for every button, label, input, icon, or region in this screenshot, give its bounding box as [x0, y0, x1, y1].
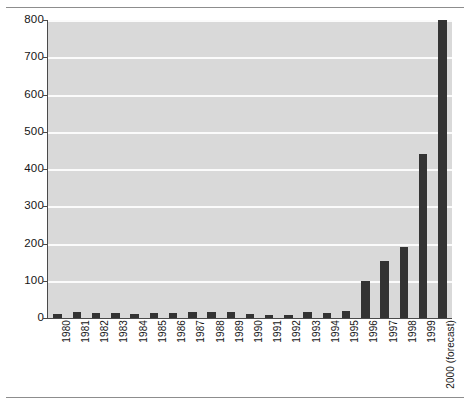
x-tick-label: 1983 — [119, 320, 129, 343]
bar — [342, 311, 350, 318]
gridline — [48, 57, 452, 59]
bar — [150, 313, 158, 318]
x-tick-label: 1995 — [350, 320, 360, 343]
x-tick-label: 1982 — [100, 320, 110, 343]
chart-figure: 0100200300400500600700800 19801981198219… — [0, 0, 472, 410]
x-tick-label: 1997 — [389, 320, 399, 343]
x-tick-label: 2000 (forecast) — [446, 320, 456, 389]
bar — [53, 314, 61, 318]
y-tick-mark — [43, 132, 47, 133]
x-tick-label: 1990 — [254, 320, 264, 343]
bar — [111, 313, 119, 318]
gridline — [48, 20, 452, 22]
bar — [130, 314, 138, 318]
y-tick-mark — [43, 169, 47, 170]
x-tick-label: 1992 — [292, 320, 302, 343]
top-divider-rule — [6, 7, 464, 8]
y-tick-mark — [43, 20, 47, 21]
bottom-divider-rule — [6, 397, 464, 398]
x-axis-labels: 1980198119821983198419851986198719881989… — [48, 320, 452, 406]
x-tick-label: 1991 — [273, 320, 283, 343]
y-tick-label: 600 — [2, 89, 44, 101]
gridline — [48, 206, 452, 208]
bar — [438, 20, 446, 318]
y-tick-mark — [43, 95, 47, 96]
y-tick-mark — [43, 57, 47, 58]
bar — [169, 313, 177, 318]
gridline — [48, 281, 452, 283]
y-tick-label: 0 — [2, 312, 44, 324]
x-tick-label: 1988 — [216, 320, 226, 343]
x-tick-label: 1984 — [139, 320, 149, 343]
x-tick-label: 1980 — [62, 320, 72, 343]
gridline — [48, 244, 452, 246]
x-tick-label: 1986 — [177, 320, 187, 343]
bar — [323, 313, 331, 318]
bar — [227, 312, 235, 318]
y-tick-label: 800 — [2, 14, 44, 26]
bar — [400, 247, 408, 318]
y-tick-mark — [43, 281, 47, 282]
x-tick-label: 1999 — [427, 320, 437, 343]
y-axis-labels: 0100200300400500600700800 — [0, 0, 44, 410]
bar — [265, 315, 273, 318]
y-tick-label: 100 — [2, 275, 44, 287]
bar — [246, 314, 254, 318]
y-tick-label: 400 — [2, 163, 44, 175]
y-tick-label: 300 — [2, 200, 44, 212]
plot-area — [48, 20, 452, 318]
bar — [303, 312, 311, 318]
bar — [284, 315, 292, 318]
bar — [207, 312, 215, 318]
x-tick-label: 1987 — [196, 320, 206, 343]
y-tick-mark — [43, 244, 47, 245]
y-tick-label: 200 — [2, 238, 44, 250]
x-tick-label: 1998 — [408, 320, 418, 343]
x-tick-label: 1989 — [235, 320, 245, 343]
x-tick-label: 1993 — [312, 320, 322, 343]
bar — [188, 312, 196, 318]
y-tick-mark — [43, 318, 47, 319]
x-tick-label: 1996 — [369, 320, 379, 343]
gridline — [48, 132, 452, 134]
bar — [92, 313, 100, 318]
y-tick-label: 700 — [2, 51, 44, 63]
x-tick-label: 1985 — [158, 320, 168, 343]
bar — [361, 281, 369, 318]
x-tick-label: 1994 — [331, 320, 341, 343]
bar — [380, 261, 388, 318]
bar — [419, 154, 427, 318]
x-tick-label: 1981 — [81, 320, 91, 343]
y-tick-label: 500 — [2, 126, 44, 138]
bar — [73, 312, 81, 318]
gridline — [48, 95, 452, 97]
y-tick-mark — [43, 206, 47, 207]
gridline — [48, 169, 452, 171]
